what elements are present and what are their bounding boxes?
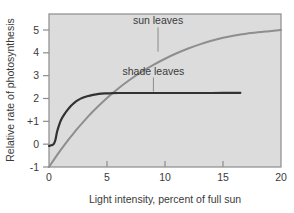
y-axis-ticks: -10+12345: [27, 24, 49, 173]
y-tick-label: 3: [33, 69, 39, 81]
y-tick-label: +1: [27, 115, 39, 127]
y-axis-title: Relative rate of photosynthesis: [4, 18, 16, 162]
chart-canvas: -10+12345 05101520 sun leavesshade leave…: [0, 0, 294, 213]
photosynthesis-light-response-chart: -10+12345 05101520 sun leavesshade leave…: [0, 0, 294, 213]
y-tick-label: -1: [30, 161, 39, 173]
plot-area-background: [49, 14, 281, 167]
x-tick-label: 10: [159, 171, 171, 183]
annotation-label-shade-leaves: shade leaves: [122, 65, 184, 77]
y-tick-label: 4: [33, 46, 39, 58]
x-tick-label: 15: [217, 171, 229, 183]
x-axis-title: Light intensity, percent of full sun: [89, 193, 241, 205]
y-tick-label: 5: [33, 24, 39, 36]
annotation-label-sun-leaves: sun leaves: [133, 14, 183, 26]
x-tick-label: 20: [275, 171, 287, 183]
x-tick-label: 0: [46, 171, 52, 183]
x-tick-label: 5: [104, 171, 110, 183]
y-tick-label: 2: [33, 92, 39, 104]
y-tick-label: 0: [33, 138, 39, 150]
